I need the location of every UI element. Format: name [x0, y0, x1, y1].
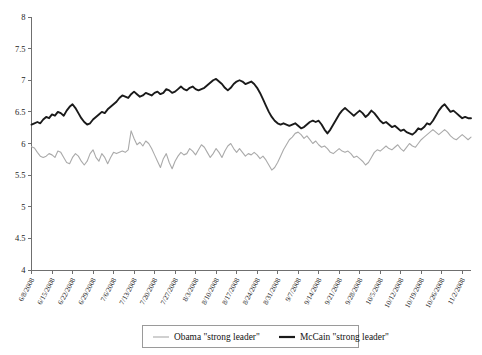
x-tick-label: 10/19/2008	[404, 276, 427, 309]
chart-legend: Obama "strong leader"McCain "strong lead…	[142, 326, 389, 348]
line-chart: 44.555.566.577.586/8/20086/15/20086/22/2…	[0, 0, 482, 355]
x-tick-label: 6/8/2008	[17, 276, 36, 303]
x-tick-label: 11/2/2008	[446, 276, 467, 306]
legend-label-1: McCain "strong leader"	[300, 332, 389, 342]
x-tick-label: 9/14/2008	[303, 276, 324, 306]
x-tick-label: 7/20/2008	[139, 276, 160, 306]
y-tick-label: 6	[21, 139, 25, 149]
series-line-obama	[32, 130, 472, 170]
y-tick-label: 6.5	[15, 107, 26, 117]
x-tick-label: 10/12/2008	[383, 276, 406, 309]
y-tick-label: 4.5	[15, 233, 26, 243]
y-tick-label: 5	[21, 202, 25, 212]
x-tick-label: 9/21/2008	[323, 276, 344, 306]
x-tick-label: 8/31/2008	[262, 276, 283, 306]
x-tick-label: 10/5/2008	[364, 276, 385, 306]
chart-canvas: 44.555.566.577.586/8/20086/15/20086/22/2…	[0, 0, 482, 355]
x-tick-label: 8/17/2008	[221, 276, 242, 306]
x-tick-label: 7/27/2008	[159, 276, 180, 306]
x-tick-label: 9/28/2008	[344, 276, 365, 306]
x-tick-label: 7/13/2008	[118, 276, 139, 306]
y-tick-label: 8	[21, 12, 25, 22]
x-tick-label: 10/26/2008	[424, 276, 447, 309]
y-tick-label: 4	[21, 265, 26, 275]
x-tick-label: 6/29/2008	[77, 276, 98, 306]
x-tick-label: 8/24/2008	[241, 276, 262, 306]
legend-label-0: Obama "strong leader"	[174, 332, 260, 342]
x-tick-label: 7/6/2008	[99, 276, 118, 303]
y-tick-label: 5.5	[15, 170, 26, 180]
x-tick-label: 8/10/2008	[200, 276, 221, 306]
y-tick-label: 7.5	[15, 44, 26, 54]
x-tick-label: 6/22/2008	[57, 276, 78, 306]
series-line-mccain	[32, 79, 472, 135]
x-tick-label: 8/3/2008	[181, 276, 200, 303]
x-tick-label: 9/7/2008	[284, 276, 303, 303]
x-tick-label: 6/15/2008	[36, 276, 57, 306]
y-tick-label: 7	[21, 75, 25, 85]
